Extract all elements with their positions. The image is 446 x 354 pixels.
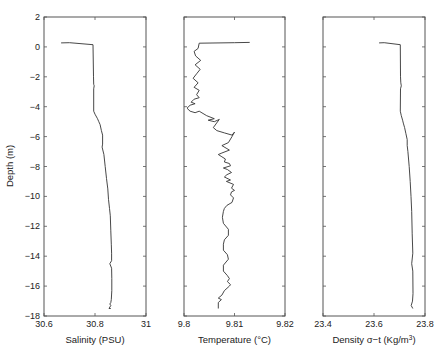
salinity-xtick-label: 30.8 [86, 319, 104, 329]
density-panel: 23.423.623.8Density σ−t (Kg/m3) [314, 17, 434, 345]
ytick-label: −14 [25, 251, 40, 261]
ytick-label: 2 [35, 12, 40, 22]
temperature-series-line [187, 42, 250, 308]
salinity-x-axis-label: Salinity (PSU) [65, 334, 124, 345]
ytick-label: −18 [25, 311, 40, 321]
temperature-panel: 9.89.819.82Temperature (°C) [178, 17, 294, 345]
ytick-label: −16 [25, 281, 40, 291]
figure: 30.630.83120−2−4−6−8−10−12−14−16−18Salin… [0, 0, 446, 354]
density-xtick-label: 23.4 [314, 319, 332, 329]
salinity-axes-box [44, 17, 146, 316]
temperature-xtick-label: 9.82 [276, 319, 294, 329]
y-axis-label: Depth (m) [4, 145, 15, 187]
salinity-xtick-label: 31 [141, 319, 151, 329]
temperature-xtick-label: 9.8 [178, 319, 191, 329]
ytick-label: −10 [25, 191, 40, 201]
density-x-axis-label: Density σ−t (Kg/m3) [332, 334, 415, 346]
ytick-label: −8 [30, 162, 40, 172]
ytick-label: −4 [30, 102, 40, 112]
ytick-label: −6 [30, 132, 40, 142]
salinity-panel: 30.630.83120−2−4−6−8−10−12−14−16−18Salin… [25, 12, 151, 345]
density-xtick-label: 23.6 [365, 319, 383, 329]
density-series-line [379, 43, 413, 309]
density-xtick-label: 23.8 [416, 319, 434, 329]
salinity-series-line [61, 43, 112, 309]
density-axes-box [323, 17, 425, 316]
ytick-label: 0 [35, 42, 40, 52]
ytick-label: −12 [25, 221, 40, 231]
temperature-xtick-label: 9.81 [226, 319, 244, 329]
temperature-x-axis-label: Temperature (°C) [198, 334, 271, 345]
ytick-label: −2 [30, 72, 40, 82]
